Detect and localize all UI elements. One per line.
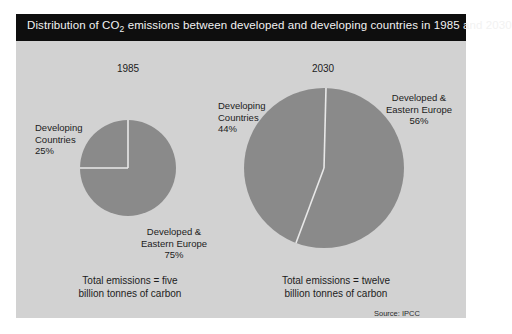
pie-chart-2030	[242, 86, 406, 250]
page-title: Distribution of CO2 emissions between de…	[27, 19, 512, 31]
pie-2030-developing-pct: 44%	[218, 123, 266, 135]
caption-2030-line1: Total emissions = twelve	[224, 274, 448, 287]
pie-1985-label-developed: Developed & Eastern Europe 75%	[141, 226, 207, 261]
pie-1985-developed-name-line2: Eastern Europe	[141, 238, 207, 250]
pie-2030-developed-name-line2: Eastern Europe	[386, 104, 452, 116]
title-prefix: Distribution of CO	[27, 19, 120, 31]
pie-1985-developed-name-line1: Developed &	[141, 226, 207, 238]
source-attribution: Source: IPCC	[374, 309, 420, 318]
title-bar: Distribution of CO2 emissions between de…	[16, 14, 466, 41]
title-suffix: emissions between developed and developi…	[124, 19, 511, 31]
pie-1985-developing-name-line1: Developing	[35, 122, 83, 134]
charts-container: 1985 Developing Countries 25% Developed …	[16, 41, 466, 318]
caption-2030-line2: billion tonnes of carbon	[224, 287, 448, 300]
year-label-2030: 2030	[291, 63, 355, 74]
pie-2030-developing-name-line1: Developing	[218, 100, 266, 112]
pie-2030-developed-name-line1: Developed &	[386, 92, 452, 104]
caption-1985: Total emissions = five billion tonnes of…	[30, 274, 230, 300]
chart-panel: Distribution of CO2 emissions between de…	[16, 14, 466, 318]
pie-2030-label-developing: Developing Countries 44%	[218, 100, 266, 135]
caption-1985-line1: Total emissions = five	[30, 274, 230, 287]
pie-2030-label-developed: Developed & Eastern Europe 56%	[386, 92, 452, 127]
title-subscript: 2	[120, 24, 125, 34]
caption-2030: Total emissions = twelve billion tonnes …	[224, 274, 448, 300]
pie-2030-developing-name-line2: Countries	[218, 112, 266, 124]
caption-1985-line2: billion tonnes of carbon	[30, 287, 230, 300]
pie-chart-1985	[78, 118, 178, 218]
pie-1985-developing-name-line2: Countries	[35, 134, 83, 146]
year-label-1985: 1985	[96, 63, 160, 74]
pie-2030-developed-pct: 56%	[386, 115, 452, 127]
pie-1985-label-developing: Developing Countries 25%	[35, 122, 83, 157]
pie-1985-developed-pct: 75%	[141, 249, 207, 261]
pie-1985-developing-pct: 25%	[35, 145, 83, 157]
